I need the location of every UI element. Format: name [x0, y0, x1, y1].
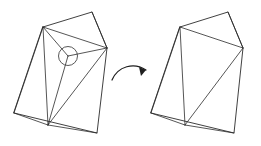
mesh-edge [185, 48, 243, 125]
mesh-edge [48, 48, 107, 125]
right-mesh-edges [151, 12, 243, 133]
mesh-edge [228, 12, 243, 48]
mesh-edge [14, 113, 48, 125]
right-mesh-after [151, 12, 243, 133]
mesh-edge [92, 12, 107, 48]
left-mesh-edges [14, 12, 107, 133]
mesh-edge [48, 125, 97, 133]
mesh-edge [43, 27, 48, 125]
mesh-edge [185, 125, 234, 133]
mesh-edge [151, 113, 185, 125]
mesh-edge [180, 27, 243, 48]
transform-arrow [112, 66, 146, 80]
mesh-edge [14, 27, 43, 113]
figure-container [0, 0, 261, 146]
mesh-edge [180, 27, 185, 125]
mesh-edge [43, 27, 107, 48]
mesh-transformation-diagram [0, 0, 261, 146]
mesh-edge [68, 48, 107, 56]
mesh-edge [48, 56, 68, 125]
left-mesh-before [14, 12, 107, 133]
mesh-edge [151, 27, 180, 113]
